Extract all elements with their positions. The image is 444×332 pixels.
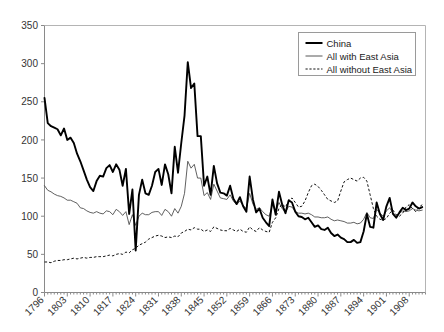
chart-container: 050100150200250300350 179618031810181718… xyxy=(0,0,444,332)
x-tick-label: 1810 xyxy=(68,294,92,318)
x-tick-label: 1845 xyxy=(182,294,206,318)
x-tick-label: 1894 xyxy=(342,294,366,318)
x-axis-ticks: 1796180318101817182418311838184518521859… xyxy=(22,293,425,318)
y-tick-label: 300 xyxy=(21,58,38,69)
x-tick-label: 1866 xyxy=(250,294,274,318)
chart-legend: ChinaAll with East AsiaAll without East … xyxy=(299,33,416,76)
x-tick-label: 1873 xyxy=(273,294,297,318)
x-tick-label: 1838 xyxy=(159,294,183,318)
y-tick-label: 200 xyxy=(21,135,38,146)
x-tick-label: 1824 xyxy=(114,294,138,318)
x-tick-label: 1887 xyxy=(319,294,343,318)
legend-label: China xyxy=(327,38,353,49)
y-axis-ticks: 050100150200250300350 xyxy=(21,20,44,298)
legend-label: All without East Asia xyxy=(327,64,413,75)
x-tick-label: 1817 xyxy=(91,294,115,318)
x-tick-label: 1908 xyxy=(387,294,411,318)
x-tick-label: 1803 xyxy=(45,294,69,318)
x-tick-label: 1901 xyxy=(364,294,388,318)
x-tick-label: 1880 xyxy=(296,294,320,318)
y-tick-label: 250 xyxy=(21,96,38,107)
data-series-group xyxy=(45,62,423,263)
y-tick-label: 50 xyxy=(27,249,39,260)
series-line-china xyxy=(45,62,423,250)
line-chart: 050100150200250300350 179618031810181718… xyxy=(0,0,444,332)
legend-label: All with East Asia xyxy=(327,51,400,62)
x-tick-label: 1831 xyxy=(136,294,160,318)
y-tick-label: 350 xyxy=(21,20,38,31)
x-tick-label: 1859 xyxy=(228,294,252,318)
y-tick-label: 150 xyxy=(21,173,38,184)
x-tick-label: 1796 xyxy=(22,294,46,318)
x-tick-label: 1852 xyxy=(205,294,229,318)
y-tick-label: 100 xyxy=(21,211,38,222)
